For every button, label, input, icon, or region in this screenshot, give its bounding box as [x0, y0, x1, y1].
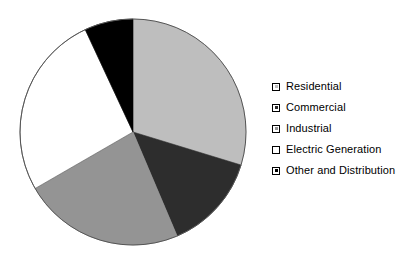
- pie-chart-figure: Residential Commercial Industrial Electr…: [0, 0, 416, 264]
- legend-item-commercial[interactable]: Commercial: [272, 97, 416, 118]
- legend-swatch-industrial: [272, 125, 280, 133]
- legend-label-commercial: Commercial: [286, 97, 346, 118]
- pie-slice-group: [20, 19, 246, 245]
- legend-item-other-and-distribution[interactable]: Other and Distribution: [272, 160, 416, 181]
- legend-item-industrial[interactable]: Industrial: [272, 118, 416, 139]
- legend-swatch-electric-generation: [272, 146, 280, 154]
- legend-item-residential[interactable]: Residential: [272, 76, 416, 97]
- legend-label-industrial: Industrial: [286, 118, 332, 139]
- legend-label-electric-generation: Electric Generation: [286, 139, 381, 160]
- legend-swatch-commercial: [272, 104, 280, 112]
- legend-swatch-other-and-distribution: [272, 167, 280, 175]
- legend-label-residential: Residential: [286, 76, 342, 97]
- legend-item-electric-generation[interactable]: Electric Generation: [272, 139, 416, 160]
- legend-swatch-residential: [272, 83, 280, 91]
- chart-legend: Residential Commercial Industrial Electr…: [272, 76, 416, 181]
- legend-label-other-and-distribution: Other and Distribution: [286, 160, 395, 181]
